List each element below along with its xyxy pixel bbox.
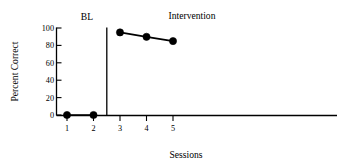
chart-screenshot: 100 80 60 40 20 0 1 2 3 4 5	[0, 0, 341, 167]
y-axis-title: Percent Correct	[9, 41, 20, 101]
x-tick-label-3: 3	[118, 124, 122, 133]
data-point-session-5	[169, 38, 176, 45]
y-tick-label-100: 100	[42, 24, 54, 33]
data-point-session-4	[143, 33, 150, 40]
data-point-session-2	[90, 111, 97, 118]
y-tick-label-40: 40	[46, 76, 54, 85]
x-axis-ticks	[67, 116, 173, 122]
y-tick-label-0: 0	[50, 111, 54, 120]
series-intervention	[116, 29, 176, 45]
x-axis-tick-labels: 1 2 3 4 5	[65, 124, 175, 133]
x-tick-label-1: 1	[65, 124, 69, 133]
y-axis-tick-labels: 100 80 60 40 20 0	[42, 24, 54, 120]
y-tick-label-60: 60	[46, 59, 54, 68]
data-point-session-1	[63, 111, 70, 118]
y-tick-label-20: 20	[46, 94, 54, 103]
y-tick-label-80: 80	[46, 41, 54, 50]
x-tick-label-5: 5	[171, 124, 175, 133]
x-tick-label-4: 4	[144, 124, 148, 133]
y-axis-ticks	[57, 28, 62, 115]
x-axis-title: Sessions	[169, 149, 202, 160]
series-baseline	[63, 111, 97, 118]
x-tick-label-2: 2	[91, 124, 95, 133]
data-point-session-3	[116, 29, 123, 36]
single-case-design-line-chart: 100 80 60 40 20 0 1 2 3 4 5	[0, 0, 341, 167]
phase-label-intervention: Intervention	[169, 10, 216, 21]
phase-label-baseline: BL	[81, 11, 93, 22]
